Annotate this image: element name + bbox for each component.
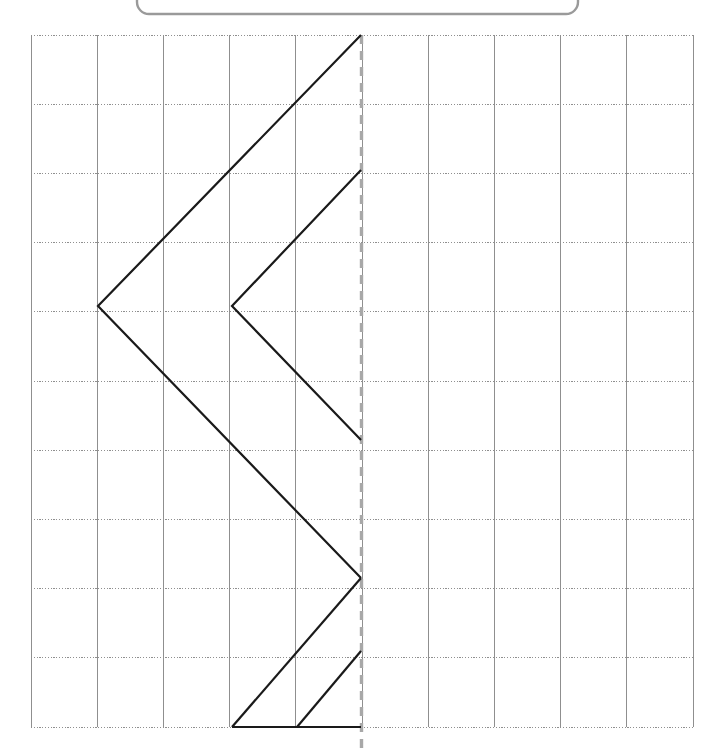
figure-svg (0, 0, 720, 750)
bottom-small-diagonal (297, 651, 361, 727)
worksheet-canvas (0, 0, 720, 750)
rounded-panel-bottom-edge (137, 0, 578, 14)
lower-tail (232, 578, 361, 727)
inner-small-chevron (232, 170, 361, 440)
